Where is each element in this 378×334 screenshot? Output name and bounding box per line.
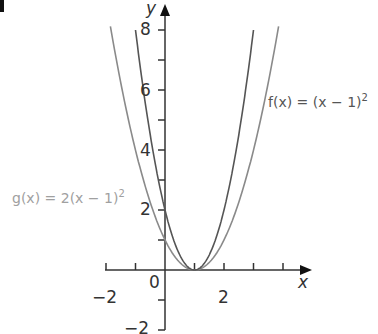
f-curve xyxy=(110,26,278,270)
y-axis-arrow-icon xyxy=(160,4,170,16)
x-axis-label: x xyxy=(298,272,308,292)
tick-label-xneg2: −2 xyxy=(92,287,117,307)
y-axis-label: y xyxy=(146,0,156,18)
tick-label-y4: 4 xyxy=(140,140,151,160)
g-curve xyxy=(136,30,254,270)
f-label-text: f(x) = (x − 1) xyxy=(268,94,362,110)
tick-label-origin: 0 xyxy=(149,272,160,292)
g-label-text: g(x) = 2(x − 1) xyxy=(12,190,118,206)
tick-label-y2: 2 xyxy=(140,199,151,219)
tick-label-x2: 2 xyxy=(218,287,229,307)
f-label: f(x) = (x − 1)2 xyxy=(268,92,368,110)
chart-canvas xyxy=(0,0,378,334)
g-label: g(x) = 2(x − 1)2 xyxy=(12,188,125,206)
tick-label-y8: 8 xyxy=(140,19,151,39)
axes xyxy=(105,12,305,330)
f-label-exponent: 2 xyxy=(362,92,368,103)
tick-label-y6: 6 xyxy=(140,80,151,100)
x-ticks xyxy=(106,263,283,270)
g-label-exponent: 2 xyxy=(118,188,124,199)
tick-label-yneg2: −2 xyxy=(124,318,149,334)
